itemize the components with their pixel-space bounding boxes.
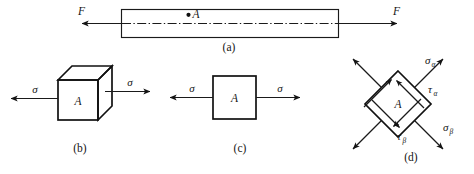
caption-d: (d) — [404, 151, 418, 164]
sigma-beta-arrow-upper — [353, 59, 382, 88]
caption-a: (a) — [223, 41, 236, 54]
sigma-beta-label: σ — [443, 121, 449, 133]
tau-beta-subscript: β — [402, 136, 407, 145]
force-label-left: F — [77, 5, 86, 17]
figure-container: A F F (a) A σ σ (b) A — [0, 0, 474, 174]
caption-b: (b) — [73, 142, 87, 155]
tau-alpha-label: τ — [428, 83, 433, 95]
sigma-alpha-label-group: σ α — [425, 54, 436, 69]
sigma-beta-label-group: σ β — [443, 121, 454, 136]
panel-d: A σ α τ α — [353, 54, 454, 164]
panel-c: A σ σ (c) — [170, 76, 300, 155]
inclined-area-label: A — [393, 98, 402, 110]
caption-c: (c) — [234, 142, 247, 155]
sigma-beta-subscript: β — [449, 127, 454, 136]
cube-right-face — [98, 66, 112, 120]
cube-stress-label-right: σ — [127, 76, 133, 88]
square-area-label: A — [230, 92, 239, 104]
cube-stress-label-left: σ — [32, 83, 38, 95]
panel-a: A F F (a) — [77, 5, 401, 54]
sigma-beta-arrow-lower — [415, 121, 444, 150]
force-label-right: F — [392, 5, 401, 17]
square-stress-label-left: σ — [189, 82, 195, 94]
cube-area-label: A — [73, 95, 82, 107]
sigma-alpha-subscript: α — [432, 60, 436, 69]
tau-alpha-label-group: τ α — [428, 83, 438, 98]
stress-element-figure: A F F (a) A σ σ (b) A — [0, 0, 474, 174]
panel-b: A σ σ (b) — [11, 66, 150, 155]
tau-alpha-subscript: α — [434, 89, 438, 98]
square-stress-label-right: σ — [277, 82, 283, 94]
sigma-alpha-arrow-lower — [353, 121, 382, 150]
sigma-alpha-label: σ — [425, 54, 431, 66]
point-a-label: A — [192, 8, 201, 20]
tau-beta-label: τ — [397, 130, 402, 142]
point-a-marker — [186, 13, 190, 17]
